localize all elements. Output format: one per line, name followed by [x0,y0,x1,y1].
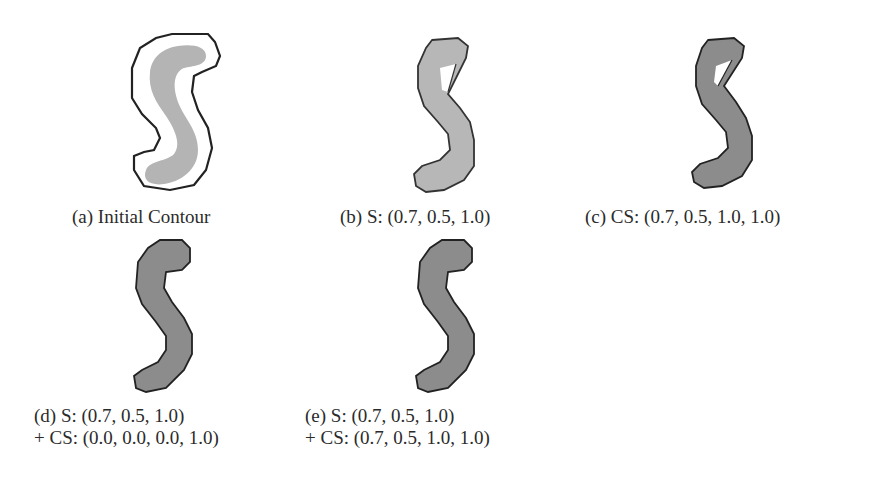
segmentation-s-image [400,30,500,200]
caption-b-text: (b) S: (0.7, 0.5, 1.0) [340,206,490,227]
segmentation-cs-image [676,30,776,200]
caption-e-line1: (e) S: (0.7, 0.5, 1.0) [305,405,490,427]
caption-d-line2: + CS: (0.0, 0.0, 0.0, 1.0) [34,427,219,449]
caption-e: (e) S: (0.7, 0.5, 1.0) + CS: (0.7, 0.5, … [305,405,490,449]
caption-c: (c) CS: (0.7, 0.5, 1.0, 1.0) [585,206,780,228]
s-shape-segmented [414,38,474,192]
segmentation-s-plus-cs-zero-image [126,238,206,398]
subfigure-b [400,30,500,200]
caption-c-text: (c) CS: (0.7, 0.5, 1.0, 1.0) [585,206,780,227]
caption-a: (a) Initial Contour [72,206,210,228]
s-shape-segmented [416,240,474,392]
initial-contour-image [120,10,240,200]
caption-d-line1: (d) S: (0.7, 0.5, 1.0) [34,405,219,427]
subfigure-e [408,238,488,398]
s-shape-segmented [692,38,752,188]
segmentation-s-plus-cs-image [408,238,488,398]
subfigure-c [676,30,776,200]
caption-d: (d) S: (0.7, 0.5, 1.0) + CS: (0.0, 0.0, … [34,405,219,449]
subfigure-d [126,238,206,398]
s-shape-segmented [134,240,192,392]
subfigure-a [120,10,240,200]
caption-e-line2: + CS: (0.7, 0.5, 1.0, 1.0) [305,427,490,449]
caption-a-text: (a) Initial Contour [72,206,210,227]
caption-b: (b) S: (0.7, 0.5, 1.0) [340,206,490,228]
